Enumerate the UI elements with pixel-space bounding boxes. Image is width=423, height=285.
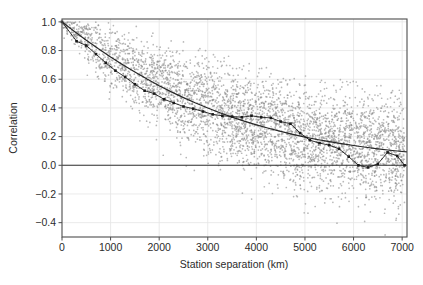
y-axis-title: Correlation xyxy=(7,102,19,154)
x-axis-title: Station separation (km) xyxy=(180,258,289,270)
y-tick-label: −0.4 xyxy=(35,216,56,228)
y-tick-label: 0.8 xyxy=(41,44,56,56)
x-tick-label: 6000 xyxy=(342,241,366,253)
y-tick-label: 1.0 xyxy=(41,16,56,28)
chart-canvas: 01000200030004000500060007000 −0.4−0.20.… xyxy=(0,0,423,285)
x-tick-label: 3000 xyxy=(196,241,220,253)
y-tick-label: 0.0 xyxy=(41,159,56,171)
x-tick-label: 4000 xyxy=(245,241,269,253)
y-tick-label: 0.2 xyxy=(41,130,56,142)
x-tick-label: 1000 xyxy=(99,241,123,253)
x-tick-label: 2000 xyxy=(148,241,172,253)
y-tick-label: 0.4 xyxy=(41,102,56,114)
x-tick-label: 7000 xyxy=(390,241,414,253)
x-tick-label: 5000 xyxy=(293,241,317,253)
y-axis-tick-labels: −0.4−0.20.00.20.40.60.81.0 xyxy=(35,16,56,229)
y-tick-label: 0.6 xyxy=(41,73,56,85)
correlation-vs-separation-figure: 01000200030004000500060007000 −0.4−0.20.… xyxy=(0,0,423,285)
y-tick-label: −0.2 xyxy=(35,188,56,200)
x-axis-tick-labels: 01000200030004000500060007000 xyxy=(59,241,414,253)
x-tick-label: 0 xyxy=(59,241,65,253)
